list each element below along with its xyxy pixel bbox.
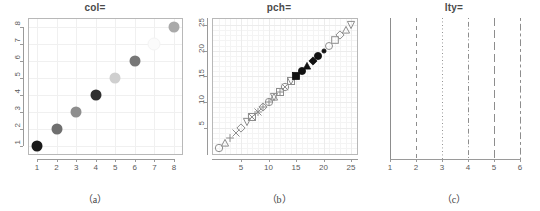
- x-axis-tick-label: 6: [518, 163, 522, 172]
- x-axis-tick: [57, 159, 58, 162]
- y-axis-tick-label: 20: [198, 44, 206, 58]
- lty-line-4: [468, 18, 469, 159]
- grid-line-vertical-major: [269, 19, 270, 154]
- grid-line-horizontal-major: [213, 76, 357, 77]
- scatter-point: [32, 141, 43, 152]
- y-axis-tick-label: 3: [14, 106, 22, 118]
- x-axis-tick-label: 5: [239, 163, 243, 172]
- y-axis-tick-label: 8: [14, 21, 22, 33]
- grid-line-horizontal-major: [213, 25, 357, 26]
- grid-line-vertical: [313, 19, 314, 154]
- x-axis-tick-label: 4: [466, 163, 470, 172]
- x-axis-tick: [154, 159, 155, 162]
- panel-pch: pch= 510152025510152025 （b）: [190, 0, 368, 211]
- scatter-point: [90, 90, 101, 101]
- y-axis-tick-label: 7: [14, 38, 22, 50]
- x-axis-tick: [468, 159, 469, 162]
- x-axis-tick: [115, 159, 116, 162]
- y-axis-tick-label: 2: [14, 123, 22, 135]
- grid-line-horizontal: [29, 95, 182, 96]
- grid-line-vertical: [174, 19, 175, 154]
- panel-title-pch: pch=: [190, 2, 368, 13]
- x-axis-tick-label: 7: [152, 163, 156, 172]
- scatter-point: [169, 22, 180, 33]
- y-axis-tick-label: 6: [14, 55, 22, 67]
- lty-line-1: [390, 18, 391, 159]
- panel-title-lty: lty=: [368, 2, 540, 13]
- panel-caption-col: （a）: [0, 191, 190, 206]
- x-axis-tick: [269, 159, 270, 162]
- grid-line-horizontal: [29, 27, 182, 28]
- y-axis-tick-label: 10: [198, 95, 206, 109]
- y-axis-tick-label: 5: [198, 121, 206, 135]
- grid-line-horizontal: [29, 78, 182, 79]
- x-axis-tick: [351, 159, 352, 162]
- grid-line-horizontal: [29, 61, 182, 62]
- lty-line-3: [442, 18, 443, 159]
- x-axis-tick-label: 3: [440, 163, 444, 172]
- grid-line-vertical: [291, 19, 292, 154]
- x-axis-tick-label: 5: [113, 163, 117, 172]
- grid-line-vertical: [135, 19, 136, 154]
- x-axis-tick-label: 8: [172, 163, 176, 172]
- grid-line-vertical: [302, 19, 303, 154]
- grid-line-vertical: [318, 19, 319, 154]
- x-axis-tick: [520, 159, 521, 162]
- x-axis-tick: [241, 159, 242, 162]
- grid-line-vertical: [96, 19, 97, 154]
- x-axis-tick-label: 2: [414, 163, 418, 172]
- grid-line-vertical: [76, 19, 77, 154]
- y-axis-line: [23, 27, 24, 146]
- x-axis-line: [212, 159, 358, 160]
- grid-line-vertical: [346, 19, 347, 154]
- y-axis-tick-label: 15: [198, 69, 206, 83]
- x-axis-tick-label: 25: [347, 163, 356, 172]
- x-axis-tick-label: 15: [292, 163, 301, 172]
- grid-line-horizontal-major: [213, 51, 357, 52]
- x-axis-tick: [296, 159, 297, 162]
- x-axis-line: [390, 159, 520, 160]
- x-axis-tick-label: 5: [492, 163, 496, 172]
- x-axis-tick: [390, 159, 391, 162]
- grid-line-vertical-major: [296, 19, 297, 154]
- pch-symbol: [347, 21, 356, 30]
- figure-container: col= 1234567812345678 （a） pch= 510152025…: [0, 0, 540, 211]
- x-axis-tick-label: 10: [264, 163, 273, 172]
- grid-line-vertical-major: [324, 19, 325, 154]
- y-axis-tick-label: 1: [14, 140, 22, 152]
- scatter-point: [51, 124, 62, 135]
- panel-lty: lty= 123456 （c）: [368, 0, 540, 211]
- plot-area-lty: [382, 18, 528, 155]
- scatter-point: [110, 73, 121, 84]
- x-axis-tick: [416, 159, 417, 162]
- x-axis-tick: [174, 159, 175, 162]
- grid-line-vertical: [37, 19, 38, 154]
- x-axis-tick-label: 1: [388, 163, 392, 172]
- scatter-point: [71, 107, 82, 118]
- grid-line-horizontal: [29, 112, 182, 113]
- plot-area-col: [28, 18, 183, 155]
- panel-caption-lty: （c）: [368, 191, 540, 206]
- grid-line-vertical: [307, 19, 308, 154]
- grid-line-horizontal: [29, 146, 182, 147]
- grid-line-vertical: [115, 19, 116, 154]
- y-axis-tick-label: 5: [14, 72, 22, 84]
- grid-line-vertical-major: [241, 19, 242, 154]
- scatter-point: [148, 38, 161, 51]
- x-axis-tick-label: 4: [93, 163, 97, 172]
- lty-line-6: [520, 18, 521, 159]
- x-axis-tick: [76, 159, 77, 162]
- x-axis-tick-label: 6: [133, 163, 137, 172]
- y-axis-line: [207, 18, 208, 155]
- y-axis-tick-label: 25: [198, 18, 206, 32]
- lty-line-2: [416, 18, 417, 159]
- x-axis-tick: [135, 159, 136, 162]
- x-axis-tick: [324, 159, 325, 162]
- x-axis-tick-label: 3: [74, 163, 78, 172]
- scatter-point: [129, 56, 140, 67]
- y-axis-tick-label: 4: [14, 89, 22, 101]
- x-axis-tick: [494, 159, 495, 162]
- x-axis-tick-label: 20: [319, 163, 328, 172]
- panel-caption-pch: （b）: [190, 191, 368, 206]
- grid-line-horizontal-major: [213, 102, 357, 103]
